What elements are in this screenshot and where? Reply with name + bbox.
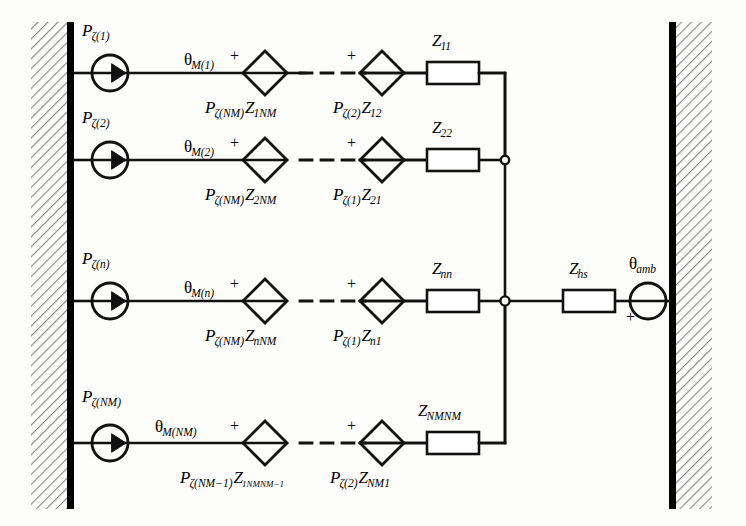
row-2-dependent-source-left [243, 138, 287, 182]
row-2-left-source-label: Pζ(NM)Z2NM [205, 186, 277, 203]
row-3-current-source [92, 283, 128, 319]
heatsink-resistor-label: Zhs [569, 260, 589, 277]
row-2-left-plus: + [230, 134, 239, 152]
row-1-source-label: Pζ(1) [82, 22, 110, 39]
row-4-right-plus: + [347, 417, 356, 435]
row-4-resistor-label: ZNMNM [418, 402, 462, 419]
heatsink-resistor [563, 290, 615, 312]
row-3-right-plus: + [347, 275, 356, 293]
row-3-left-source-label: Pζ(NM)ZnNM [205, 327, 277, 344]
row-4-node-label: θM(NM) [155, 418, 198, 435]
row-1-dependent-source-right [360, 51, 427, 95]
ambient-polarity-plus: + [626, 308, 635, 326]
row-2-resistor-label: Z22 [432, 119, 453, 136]
row-2-node-label: θM(2) [184, 138, 215, 155]
row-1-node-label: θM(1) [184, 51, 215, 68]
row-4-left-source-label: Pζ(NM−1)Z1NMNM−1 [180, 469, 285, 486]
hatched-wall-left [31, 22, 74, 509]
figure-canvas: Pζ(1) θM(1) + Pζ(NM)Z1NM + Pζ(2)Z12 Z11 … [0, 0, 746, 526]
row-1-resistor [427, 62, 479, 84]
row-1-bus-link [479, 73, 505, 160]
row-4-dependent-source-left [243, 421, 287, 465]
row-1-right-source-label: Pζ(2)Z12 [333, 99, 382, 116]
row-3-resistor [427, 290, 479, 312]
ambient-temperature-source [630, 283, 666, 319]
row-1-left-source-label: Pζ(NM)Z1NM [205, 99, 277, 116]
row-3-source-label: Pζ(n) [82, 250, 110, 267]
row-3-resistor-label: Znn [432, 260, 453, 277]
row-2-dependent-source-right [360, 138, 427, 182]
row-4-right-source-label: Pζ(2)ZNM1 [330, 469, 391, 486]
row-1-dependent-source-left [243, 51, 287, 95]
row-3-node-label: θM(n) [184, 279, 215, 296]
row-2-right-plus: + [347, 134, 356, 152]
junction-node-row-2 [501, 156, 509, 164]
row-4-bus-link [479, 301, 505, 443]
row-3-left-plus: + [230, 275, 239, 293]
row-4-current-source [92, 425, 128, 461]
row-2-resistor [427, 149, 479, 171]
row-4-left-plus: + [230, 417, 239, 435]
ambient-temperature-label: θamb [629, 255, 657, 272]
row-1-left-plus: + [230, 47, 239, 65]
row-4-resistor [427, 432, 479, 454]
row-2-current-source [92, 142, 128, 178]
hatched-wall-right [669, 22, 712, 509]
row-1-current-source [92, 55, 128, 91]
junction-node-row-3 [500, 296, 509, 305]
row-3-dependent-source-left [243, 279, 287, 323]
row-4-source-label: Pζ(NM) [82, 388, 122, 405]
row-1-right-plus: + [347, 47, 356, 65]
row-3-dependent-source-right [360, 279, 427, 323]
row-2-right-source-label: Pζ(1)Z21 [333, 186, 382, 203]
row-1-resistor-label: Z11 [432, 32, 452, 49]
row-2-source-label: Pζ(2) [82, 109, 110, 126]
row-3-right-source-label: Pζ(1)Zn1 [333, 327, 382, 344]
row-4-dependent-source-right [360, 421, 427, 465]
